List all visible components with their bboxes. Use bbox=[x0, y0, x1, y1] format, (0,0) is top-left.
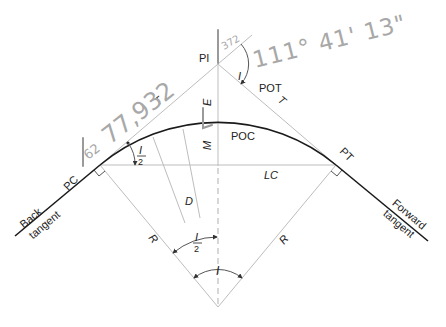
svg-text:2: 2 bbox=[194, 244, 199, 254]
forward-tangent-line-to-pi bbox=[218, 64, 336, 165]
pencil-mark-l bbox=[203, 108, 212, 128]
handwritten-tangent-length: 77,932 bbox=[96, 76, 179, 150]
handwritten-pi-note: 372 bbox=[220, 33, 242, 52]
label-poc: POC bbox=[231, 130, 255, 142]
label-d: D bbox=[185, 195, 193, 207]
right-angle-mark-pc bbox=[94, 170, 105, 176]
handwritten-deflection-angle: 111° 41' 13" bbox=[250, 10, 409, 73]
label-lc: LC bbox=[264, 169, 278, 181]
horizontal-curve-diagram: PI I POT T T E M POC PC PT LC D R R I 2 … bbox=[0, 0, 446, 327]
label-r-right: R bbox=[276, 232, 290, 246]
label-pot: POT bbox=[259, 82, 282, 94]
label-half-i-pc: I 2 bbox=[137, 144, 146, 167]
deflection-angle-arc-pi bbox=[241, 44, 249, 84]
svg-text:I: I bbox=[195, 231, 198, 243]
label-pc: PC bbox=[61, 173, 80, 192]
svg-text:I: I bbox=[139, 144, 142, 156]
label-pt: PT bbox=[338, 145, 357, 164]
half-angle-arc-pc bbox=[128, 143, 135, 165]
label-i-center: I bbox=[216, 264, 220, 278]
radius-right-line bbox=[218, 165, 336, 307]
label-m: M bbox=[201, 140, 213, 150]
label-i-at-pi: I bbox=[238, 70, 241, 82]
label-t-forward: T bbox=[276, 93, 290, 107]
label-r-left: R bbox=[146, 232, 160, 246]
label-pi: PI bbox=[199, 52, 209, 64]
back-tangent-caption: Back tangent bbox=[17, 197, 62, 241]
svg-text:2: 2 bbox=[138, 157, 143, 167]
right-angle-mark-pt bbox=[331, 170, 342, 176]
label-half-i-center: I 2 bbox=[193, 231, 202, 254]
label-e: E bbox=[201, 98, 213, 106]
degree-of-curve-line-1 bbox=[153, 137, 185, 223]
